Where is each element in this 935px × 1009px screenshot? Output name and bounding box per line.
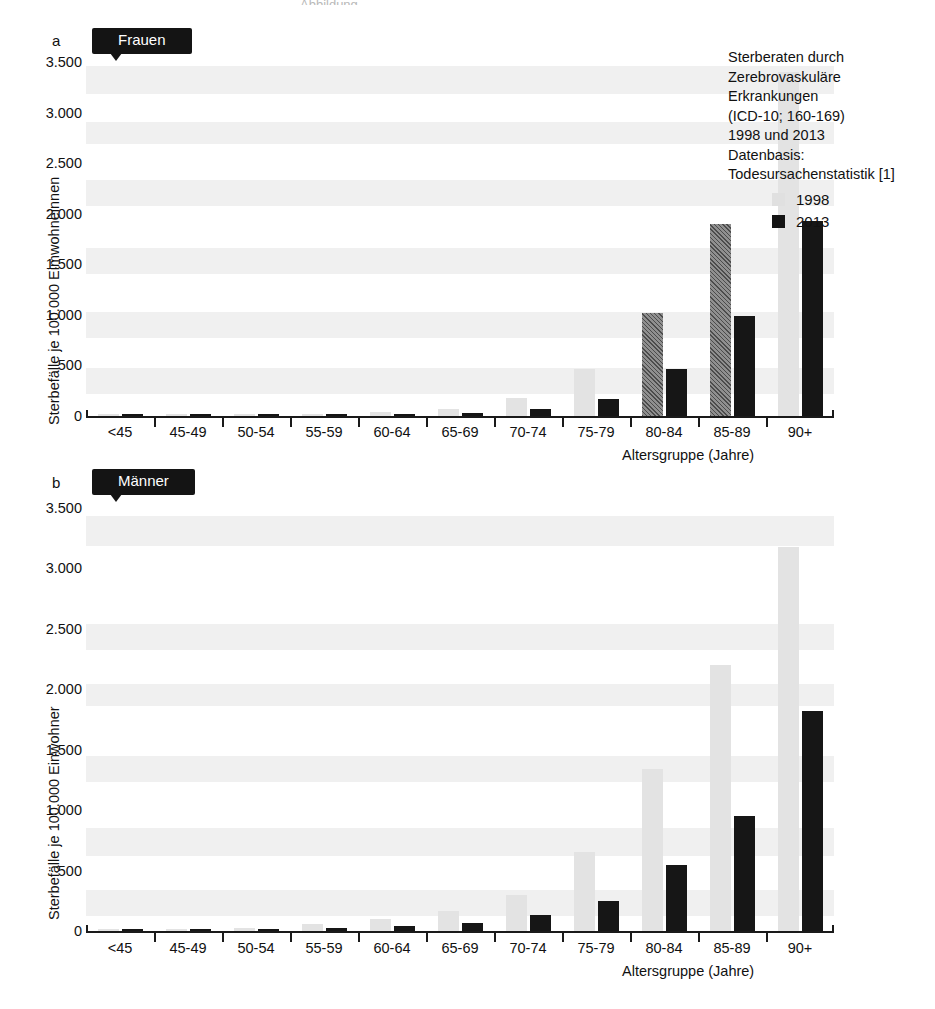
legend-swatch-1998 [772,193,785,206]
y-axis-tick-label: 500 [58,863,82,879]
annotation-line-4: 1998 und 2013 [728,126,895,146]
x-axis-tick-label: 65-69 [441,940,478,956]
annotation-line-3: (ICD-10; 160-169) [728,107,895,127]
bar-1998-75-79 [574,852,595,931]
x-axis-tickmark [562,933,564,942]
bar-1998-55-59 [302,924,323,931]
x-axis-tickmark [698,418,700,427]
x-axis-tickmark [630,418,632,427]
bar-2013-85-89 [734,816,755,931]
bar-1998-80-84 [642,313,663,416]
bar-1998-65-69 [438,409,459,416]
panel-frauen: a Frauen Sterbefälle je 100.000 Eimwohne… [0,0,935,500]
plot-area-a [86,62,834,418]
bar-2013-75-79 [598,901,619,931]
panel-title-chip-frauen: Frauen [92,28,192,54]
bar-1998-70-74 [506,398,527,416]
x-axis-line-a [86,416,834,418]
y-axis-tick-label: 0 [74,923,82,939]
bar-2013-65-69 [462,923,483,931]
x-axis-tickmark [290,418,292,427]
x-axis-left-cap-a [86,410,88,418]
bar-1998-65-69 [438,911,459,931]
x-axis-tickmark [222,418,224,427]
figure-root: Abbildung a Frauen Sterbefälle je 100.00… [0,0,935,1009]
x-axis-tick-label: 90+ [788,940,813,956]
legend-entry-1998: 1998 [772,188,829,210]
x-axis-tick-label: <45 [108,940,133,956]
x-axis-title-b: Altersgruppe (Jahre) [622,963,754,979]
x-axis-tick-label: 50-54 [237,940,274,956]
x-axis-tick-label: 60-64 [373,424,410,440]
x-axis-tickmark [766,933,768,942]
x-axis-tick-label: <45 [108,424,133,440]
x-axis-tickmark [562,418,564,427]
x-axis-tickmark [358,933,360,942]
bar-2013-70-74 [530,915,551,931]
bar-2013-90+ [802,711,823,931]
annotation-line-6: Todesursachenstatistik [1] [728,165,895,185]
x-axis-right-cap-b [832,925,834,933]
y-axis-tick-label: 1.000 [46,802,82,818]
annotation-line-5: Datenbasis: [728,146,895,166]
x-axis-tick-label: 45-49 [169,940,206,956]
bar-2013-80-84 [666,369,687,416]
y-axis-tick-label: 2.500 [46,155,82,171]
y-axis-tick-label: 500 [58,357,82,373]
x-axis-tickmark [154,933,156,942]
bar-1998-80-84 [642,769,663,931]
x-axis-tick-label: 65-69 [441,424,478,440]
scan-band [86,66,834,94]
y-axis-tick-label: 1.500 [46,742,82,758]
y-axis-tick-label: 3.000 [46,560,82,576]
bar-1998-75-79 [574,369,595,416]
annotation-line-2: Erkrankungen [728,87,895,107]
scan-band [86,122,834,144]
bar-1998-85-89 [710,224,731,416]
plot-area-b [86,508,834,933]
y-axis-tick-label: 3.500 [46,54,82,70]
x-axis-tickmark [766,418,768,427]
x-axis-tick-label: 60-64 [373,940,410,956]
x-axis-tick-label: 70-74 [509,940,546,956]
x-axis-tick-label: 85-89 [713,940,750,956]
y-axis-tick-label: 3.000 [46,105,82,121]
x-axis-tickmark [222,933,224,942]
legend-swatch-2013 [772,215,785,228]
legend-label-1998: 1998 [796,191,829,208]
x-axis-tick-label: 70-74 [509,424,546,440]
x-axis-tickmark [426,933,428,942]
x-axis-tick-label: 80-84 [645,424,682,440]
x-axis-tickmark [154,418,156,427]
y-axis-tick-label: 1.500 [46,256,82,272]
x-axis-left-cap-b [86,925,88,933]
y-axis-tick-label: 1.000 [46,307,82,323]
x-axis-tickmark [698,933,700,942]
x-axis-tick-label: 80-84 [645,940,682,956]
y-axis-tick-label: 0 [74,408,82,424]
x-axis-tick-label: 45-49 [169,424,206,440]
bar-2013-90+ [802,221,823,416]
scan-band [86,180,834,206]
x-axis-tick-label: 50-54 [237,424,274,440]
legend-label-2013: 2013 [796,213,829,230]
x-axis-line-b [86,931,834,933]
bar-1998-90+ [778,547,799,931]
x-axis-tickmark [358,418,360,427]
annotation-line-1: Zerebrovaskuläre [728,68,895,88]
x-axis-tick-label: 55-59 [305,424,342,440]
x-axis-tickmark [290,933,292,942]
x-axis-tick-label: 75-79 [577,940,614,956]
x-axis-tick-label: 90+ [788,424,813,440]
x-axis-tick-label: 75-79 [577,424,614,440]
scan-band [86,516,834,546]
x-axis-tickmark [494,933,496,942]
y-axis-ticklabels-b: 05001.0001.5002.0002.5003.0003.500 [0,455,82,945]
annotation-block: Sterberaten durchZerebrovaskuläreErkrank… [728,48,895,185]
annotation-line-0: Sterberaten durch [728,48,895,68]
bar-2013-85-89 [734,316,755,416]
y-axis-tick-label: 3.500 [46,500,82,516]
y-axis-tick-label: 2.500 [46,621,82,637]
panel-maenner: b Männer Sterbefälle je 100.000 Einwohne… [0,455,935,1009]
scan-band [86,624,834,650]
